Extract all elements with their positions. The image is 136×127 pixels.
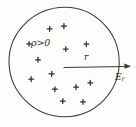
plus-charge-icon (84, 42, 89, 47)
arrow-head-icon (124, 64, 131, 69)
plus-charge-icon (52, 87, 57, 92)
field-symbol: E (115, 72, 122, 82)
plus-charge-icon (36, 57, 41, 62)
plus-charge-icon (74, 85, 79, 90)
charge-density-label: ρ>0 (31, 38, 50, 48)
field-subscript: r (122, 75, 125, 83)
plus-charge-icon (49, 71, 54, 76)
positive-charge-marks (27, 24, 93, 105)
plus-charge-icon (88, 80, 93, 85)
plus-charge-icon (81, 99, 86, 104)
charged-sphere-figure: ρ>0 r Er (0, 0, 136, 127)
arrow-shaft (64, 66, 126, 67)
plus-charge-icon (63, 47, 68, 52)
radius-field-arrow (64, 64, 131, 69)
radius-label: r (84, 53, 88, 62)
figure-canvas (0, 0, 136, 127)
plus-charge-icon (60, 99, 65, 104)
plus-charge-icon (29, 77, 34, 82)
plus-charge-icon (61, 24, 66, 29)
plus-charge-icon (47, 26, 52, 31)
electric-field-label: Er (115, 73, 125, 83)
